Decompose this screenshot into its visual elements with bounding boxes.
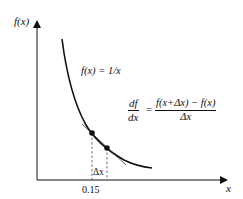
formula-rhs-denominator: Δx [180,111,191,123]
formula-rhs: f(x+Δx) − f(x) Δx [155,98,216,122]
point-x [89,130,95,136]
formula-lhs-numerator: df [128,98,139,111]
point-x-plus-dx [104,145,110,151]
tick-label-0-15: 0.15 [82,185,100,195]
delta-x-label: Δx [93,168,104,178]
tangent-line [82,124,126,165]
formula-lhs-denominator: dx [128,111,138,123]
function-label: f(x) = 1/x [81,66,121,77]
derivative-diagram: f(x) x f(x) = 1/x 0.15 Δx df dx = f(x+Δx… [0,0,243,199]
x-axis-label: x [226,183,231,194]
formula-equals: = [146,104,152,115]
formula-lhs: df dx [128,98,139,123]
formula-rhs-numerator: f(x+Δx) − f(x) [155,98,216,111]
y-axis-label: f(x) [14,16,29,27]
